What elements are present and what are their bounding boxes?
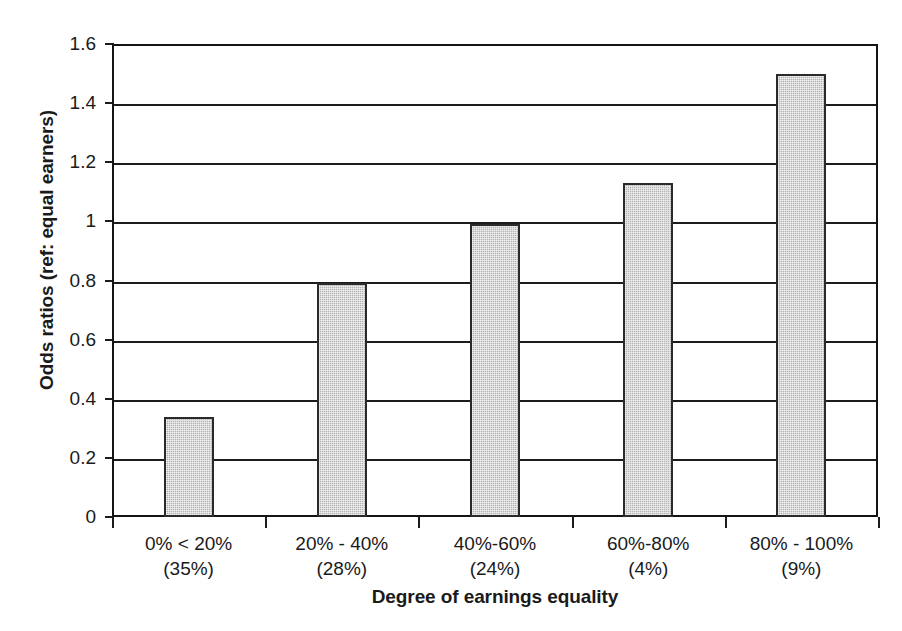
x-axis-tick-mark (265, 517, 267, 528)
gridline (114, 104, 876, 106)
y-axis-tick-label: 0 (26, 507, 96, 526)
x-axis-tick-mark (112, 517, 114, 528)
x-axis-tick-label: 80% - 100%(9%) (721, 531, 881, 581)
x-axis-tick-label: 60%-80%(4%) (568, 531, 728, 581)
x-axis-tick-label: 40%-60%(24%) (415, 531, 575, 581)
x-axis-tick-label-range: 40%-60% (415, 531, 575, 556)
bar[interactable] (776, 74, 826, 517)
x-axis-tick-label-share: (28%) (262, 556, 422, 581)
y-axis-title: Odds ratios (ref: equal earners) (34, 0, 60, 500)
bar-chart-figure: Odds ratios (ref: equal earners) 00.20.4… (0, 0, 902, 631)
x-axis-tick-mark (878, 517, 880, 528)
y-axis-tick-label: 1.4 (26, 93, 96, 112)
x-axis-tick-mark (572, 517, 574, 528)
x-axis-tick-label-range: 80% - 100% (721, 531, 881, 556)
x-axis-tick-mark (725, 517, 727, 528)
x-axis-tick-label: 0% < 20%(35%) (109, 531, 269, 581)
gridline (114, 163, 876, 165)
x-axis-tick-label-range: 0% < 20% (109, 531, 269, 556)
x-axis-tick-label-share: (24%) (415, 556, 575, 581)
x-axis-tick-label-share: (4%) (568, 556, 728, 581)
x-axis-tick-mark (418, 517, 420, 528)
y-axis-tick-label: 0.6 (26, 330, 96, 349)
x-axis-tick-label-range: 60%-80% (568, 531, 728, 556)
y-axis-tick-label: 1.2 (26, 152, 96, 171)
x-axis-title: Degree of earnings equality (112, 586, 878, 608)
y-axis-tick-label: 0.8 (26, 271, 96, 290)
bar[interactable] (470, 224, 520, 517)
x-axis-tick-label-share: (9%) (721, 556, 881, 581)
x-axis-tick-label-range: 20% - 40% (262, 531, 422, 556)
y-axis-tick-label: 1 (26, 211, 96, 230)
y-axis-tick-label: 0.2 (26, 448, 96, 467)
x-axis-tick-label: 20% - 40%(28%) (262, 531, 422, 581)
y-axis-tick-label: 0.4 (26, 389, 96, 408)
x-axis-tick-label-share: (35%) (109, 556, 269, 581)
bar[interactable] (623, 183, 673, 517)
bar[interactable] (164, 417, 214, 518)
y-axis-tick-label: 1.6 (26, 34, 96, 53)
bar[interactable] (317, 283, 367, 517)
